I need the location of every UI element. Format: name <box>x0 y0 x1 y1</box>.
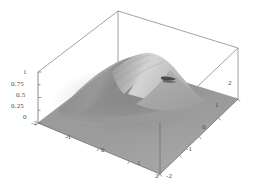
y-tick-label: 2 <box>228 80 232 87</box>
plot-canvas <box>0 0 255 192</box>
surface-plot-figure: 1 0.75 0.5 0.25 0 -2 -1 0 1 2 2 1 0 -1 -… <box>0 0 255 192</box>
y-tick-label: 0 <box>202 124 206 131</box>
x-tick-label: -2 <box>31 120 37 127</box>
x-tick-label: 0 <box>101 147 105 154</box>
z-tick-label: 0.25 <box>11 103 24 110</box>
y-tick-label: -1 <box>186 146 192 153</box>
surface-mesh <box>52 53 206 135</box>
z-tick-label: 1 <box>23 69 27 76</box>
z-tick-label: 0 <box>23 114 27 121</box>
x-tick-label: 2 <box>155 173 159 180</box>
x-tick-label: -1 <box>65 134 71 141</box>
z-tick-label: 0.75 <box>11 81 24 88</box>
z-axis-ticks <box>38 72 42 123</box>
z-tick-label: 0.5 <box>16 92 25 99</box>
y-tick-label: -2 <box>166 173 172 180</box>
y-tick-label: 1 <box>215 102 219 109</box>
x-tick-label: 1 <box>137 160 141 167</box>
